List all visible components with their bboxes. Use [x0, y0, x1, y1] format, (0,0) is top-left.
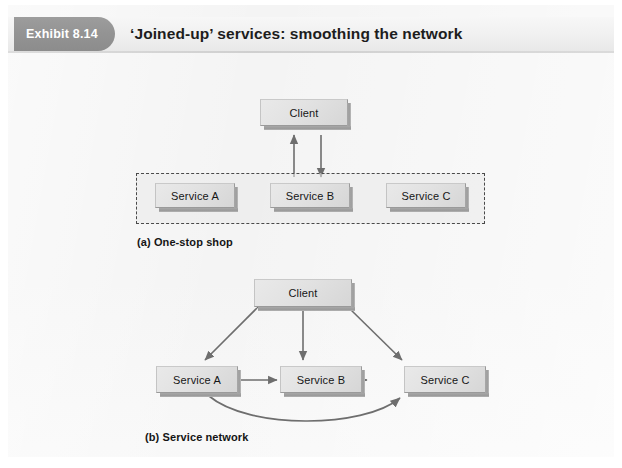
node-label: Service C	[420, 374, 469, 386]
node-service-c-top[interactable]: Service C	[386, 183, 466, 208]
arrow-client-service-c	[349, 308, 402, 360]
node-service-c-bottom[interactable]: Service C	[404, 366, 486, 393]
node-label: Service B	[286, 190, 334, 202]
node-client-b[interactable]: Client	[254, 279, 352, 307]
node-service-a-bottom[interactable]: Service A	[156, 366, 238, 393]
node-label: Service B	[297, 374, 345, 386]
node-client-a[interactable]: Client	[260, 99, 348, 126]
node-label: Client	[288, 287, 317, 299]
node-label: Service C	[401, 190, 450, 202]
exhibit-page: Exhibit 8.14 ‘Joined-up’ services: smoot…	[0, 0, 622, 468]
node-service-a-top[interactable]: Service A	[155, 183, 235, 208]
exhibit-diagram: Client Service A Service B Service C (a)…	[8, 5, 614, 457]
caption-service-network: (b) Service network	[145, 431, 248, 443]
node-service-b-top[interactable]: Service B	[270, 183, 350, 208]
arrow-client-service-a	[205, 308, 257, 360]
caption-one-stop-shop: (a) One-stop shop	[137, 236, 233, 248]
node-label: Service A	[173, 374, 221, 386]
arrow-service-a-service-c-curved	[209, 396, 400, 421]
node-label: Service A	[171, 190, 219, 202]
node-label: Client	[289, 107, 318, 119]
node-service-b-bottom[interactable]: Service B	[280, 366, 362, 393]
